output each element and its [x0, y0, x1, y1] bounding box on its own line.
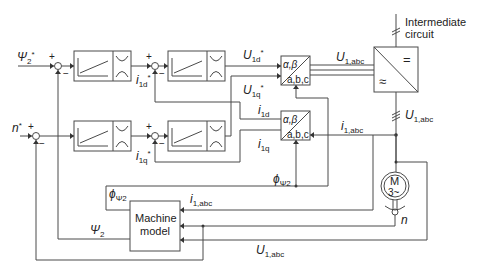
- sum-junction-id: [152, 63, 159, 70]
- i1q-label: i1q: [258, 137, 270, 153]
- i1abc-model-label: i1,abc: [190, 192, 212, 208]
- speed-controller-block: [74, 121, 131, 151]
- sign-plus-iq: +: [146, 121, 152, 132]
- transform-top-alpha-beta: α,β: [283, 59, 297, 70]
- phi-psi2-left-label: ϕΨ2: [109, 187, 127, 203]
- dc-link-label-2: circuit: [405, 28, 434, 40]
- motor-label-3phase: 3~: [388, 187, 400, 198]
- motor-label-m: M: [390, 175, 399, 187]
- u1abc-bottom-label: U1,abc: [256, 243, 284, 259]
- speed-ref-label: n*: [12, 121, 22, 135]
- dc-link-label: Intermediate: [405, 16, 466, 28]
- sign-minus-flux: −: [63, 68, 69, 79]
- psi2-feedback-label: Ψ2: [90, 223, 105, 239]
- inverter-dc-symbol: =: [403, 52, 411, 67]
- sign-plus-speed: +: [28, 121, 34, 132]
- id-current-controller-block: [168, 51, 225, 81]
- machine-model-label-2: model: [140, 225, 170, 237]
- i1q-ref-label: i1q*: [136, 149, 151, 165]
- iq-current-controller-block: [168, 121, 225, 151]
- u1abc-top-label: U1,abc: [336, 50, 364, 66]
- sign-plus-flux: +: [49, 51, 55, 62]
- machine-model-label-1: Machine: [135, 212, 177, 224]
- sign-plus-id: +: [146, 51, 152, 62]
- transform-top-abc: a,b,c: [287, 74, 309, 85]
- i1abc-right-label: i1,abc: [341, 119, 363, 135]
- flux-ref-label: Ψ2*: [17, 50, 35, 66]
- speed-n-label: n: [401, 213, 408, 227]
- sum-junction-flux: [55, 63, 62, 70]
- sign-minus-iq: −: [159, 138, 165, 149]
- sum-junction-iq: [152, 133, 159, 140]
- u1q-ref-label: U1q*: [243, 83, 264, 99]
- sign-minus-id: −: [159, 68, 165, 79]
- i1d-label: i1d: [258, 103, 270, 119]
- sign-minus-speed: −: [39, 138, 45, 149]
- u1abc-right-label: U1,abc: [405, 108, 433, 124]
- block-diagram: + − + − + − + −: [0, 0, 479, 275]
- inverter-ac-symbol: ≈: [379, 74, 386, 89]
- u1d-ref-label: U1d*: [243, 48, 264, 64]
- i1d-ref-label: i1d*: [136, 73, 151, 89]
- transform-bottom-abc: a,b,c: [287, 129, 309, 140]
- phi-psi2-center-label: ϕΨ2: [273, 172, 291, 188]
- transform-bottom-alpha-beta: α,β: [283, 114, 297, 125]
- flux-controller-block: [74, 51, 131, 81]
